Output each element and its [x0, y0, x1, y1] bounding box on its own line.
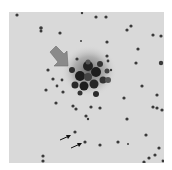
globular-cluster [61, 45, 117, 97]
star-field-image [9, 12, 164, 163]
pointer-arrow-icon [50, 46, 68, 66]
marker-arrow-icon [71, 143, 82, 148]
marker-arrow-icon [60, 135, 71, 140]
